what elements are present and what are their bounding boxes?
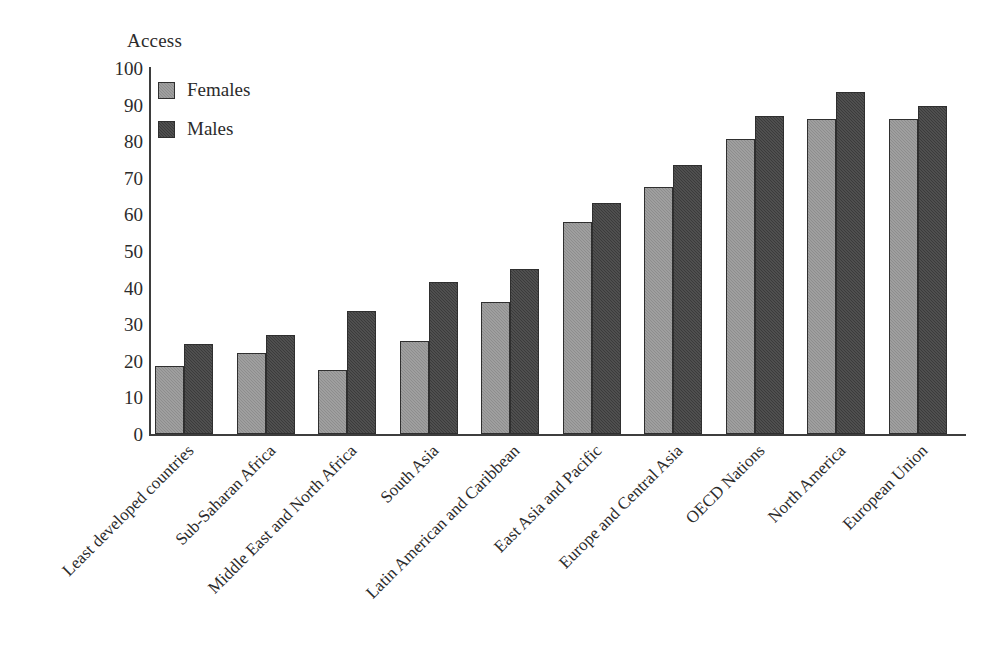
y-tick-label: 50: [95, 242, 143, 261]
legend-label: Females: [187, 79, 250, 101]
bar-females[interactable]: [481, 302, 510, 434]
bar-females[interactable]: [318, 370, 347, 434]
y-axis-tick-labels: 0102030405060708090100: [95, 0, 143, 652]
y-tick-label: 90: [95, 96, 143, 115]
y-tick-label: 40: [95, 279, 143, 298]
bar-males[interactable]: [184, 344, 213, 434]
bar-group: [563, 68, 621, 434]
y-tick-label: 10: [95, 388, 143, 407]
bar-males[interactable]: [592, 203, 621, 434]
bar-females[interactable]: [726, 139, 755, 434]
bar-females[interactable]: [563, 222, 592, 434]
bar-females[interactable]: [400, 341, 429, 434]
legend-swatch-male: [158, 121, 175, 138]
bar-group: [726, 68, 784, 434]
bar-males[interactable]: [918, 106, 947, 434]
plot-area: [150, 68, 965, 434]
x-category-label: South Asia: [0, 441, 443, 652]
bar-females[interactable]: [889, 119, 918, 434]
y-tick-label: 30: [95, 315, 143, 334]
y-tick-label: 20: [95, 352, 143, 371]
bar-group: [237, 68, 295, 434]
x-axis-line: [149, 434, 966, 436]
bar-males[interactable]: [755, 116, 784, 434]
legend-swatch-female: [158, 82, 175, 99]
y-tick-label: 0: [95, 425, 143, 444]
y-tick-label: 100: [95, 59, 143, 78]
bar-group: [481, 68, 539, 434]
bar-males[interactable]: [429, 282, 458, 434]
y-tick-label: 70: [95, 169, 143, 188]
bar-females[interactable]: [237, 353, 266, 434]
y-tick-label: 60: [95, 205, 143, 224]
bar-group: [318, 68, 376, 434]
bar-males[interactable]: [266, 335, 295, 434]
bar-females[interactable]: [155, 366, 184, 434]
bar-group: [807, 68, 865, 434]
bar-males[interactable]: [836, 92, 865, 434]
bar-males[interactable]: [673, 165, 702, 434]
bar-females[interactable]: [644, 187, 673, 434]
bar-group: [644, 68, 702, 434]
y-tick-label: 80: [95, 132, 143, 151]
bar-males[interactable]: [347, 311, 376, 434]
bar-group: [400, 68, 458, 434]
legend-label: Males: [187, 118, 233, 140]
bar-males[interactable]: [510, 269, 539, 434]
bar-females[interactable]: [807, 119, 836, 434]
bar-group: [889, 68, 947, 434]
access-bar-chart: Access 0102030405060708090100 FemalesMal…: [0, 0, 1002, 652]
